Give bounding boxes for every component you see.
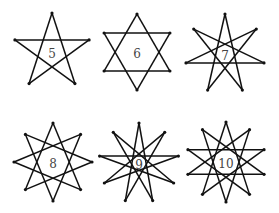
star-vertex xyxy=(192,27,195,30)
star-label-8: 8 xyxy=(49,157,57,171)
star-vertex xyxy=(186,173,189,176)
star-vertex xyxy=(241,88,244,91)
star-vertex xyxy=(262,61,265,64)
star-edge xyxy=(29,40,89,84)
star-vertex xyxy=(172,181,175,184)
star-6: 6 xyxy=(102,12,171,91)
star-vertex xyxy=(79,188,82,191)
star-vertex xyxy=(151,199,154,202)
star-vertex xyxy=(98,154,101,157)
star-vertex xyxy=(51,199,54,202)
star-vertex xyxy=(184,61,187,64)
star-label-7: 7 xyxy=(221,49,229,63)
star-vertex xyxy=(90,160,93,163)
star-vertex xyxy=(186,148,189,151)
star-vertex xyxy=(201,128,204,131)
star-vertex xyxy=(102,69,105,72)
star-vertex xyxy=(24,133,27,136)
star-vertex xyxy=(137,121,140,124)
star-vertex xyxy=(177,154,180,157)
star-vertex xyxy=(112,131,115,134)
star-vertex xyxy=(73,82,76,85)
star-vertex xyxy=(27,82,30,85)
star-vertex xyxy=(135,88,138,91)
star-vertex xyxy=(262,148,265,151)
star-10: 10 xyxy=(186,120,265,203)
star-vertex xyxy=(224,200,227,203)
star-vertex xyxy=(206,88,209,91)
star-9: 9 xyxy=(98,121,180,202)
star-vertex xyxy=(168,69,171,72)
star-edge xyxy=(113,132,173,183)
star-7: 7 xyxy=(184,12,265,91)
star-5: 5 xyxy=(13,11,90,85)
star-vertex xyxy=(248,193,251,196)
star-vertex xyxy=(51,121,54,124)
star-vertex xyxy=(255,27,258,30)
star-label-5: 5 xyxy=(48,47,56,61)
star-edge xyxy=(15,40,75,84)
star-vertex xyxy=(102,31,105,34)
star-polygons-figure: 5 6 7 8 9 10 xyxy=(0,0,279,213)
star-vertex xyxy=(223,12,226,15)
star-vertex xyxy=(224,120,227,123)
star-vertex xyxy=(13,38,16,41)
star-vertex xyxy=(79,133,82,136)
star-vertex xyxy=(135,12,138,15)
star-label-6: 6 xyxy=(133,47,141,61)
star-vertex xyxy=(262,173,265,176)
star-vertex xyxy=(168,31,171,34)
star-vertex xyxy=(201,193,204,196)
star-vertex xyxy=(124,199,127,202)
star-vertex xyxy=(103,181,106,184)
star-vertex xyxy=(24,188,27,191)
star-vertex xyxy=(248,128,251,131)
star-label-10: 10 xyxy=(218,157,233,171)
star-vertex xyxy=(163,131,166,134)
star-vertex xyxy=(50,11,53,14)
star-label-9: 9 xyxy=(135,158,143,172)
star-8: 8 xyxy=(12,121,93,202)
star-vertex xyxy=(12,160,15,163)
star-vertex xyxy=(87,38,90,41)
